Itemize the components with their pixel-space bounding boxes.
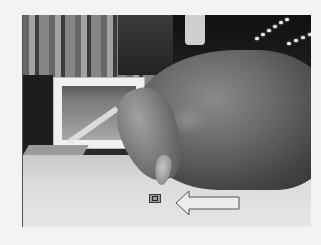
left-arrow-icon (175, 190, 241, 216)
ceiling-light (287, 42, 291, 45)
ceiling-light (301, 36, 305, 39)
ceiling-light (285, 18, 289, 21)
ceiling-light (261, 33, 265, 36)
target-marker (149, 194, 161, 203)
ceiling-light (294, 39, 298, 42)
ceiling-light (255, 37, 259, 40)
ceiling-light (279, 21, 283, 24)
ceiling-light (308, 33, 311, 36)
page (0, 0, 321, 245)
photograph (22, 15, 311, 227)
background-light-column (185, 15, 205, 45)
ceiling-light (273, 25, 277, 28)
ceiling-light (267, 29, 271, 32)
